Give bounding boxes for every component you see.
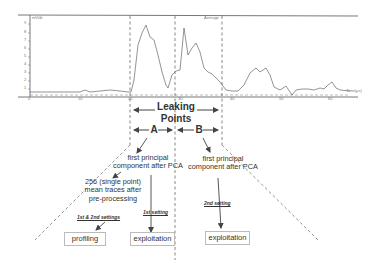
y-tick-label: 6 [24,46,26,51]
y-tick-label: 5 [24,54,26,59]
y-tick-label: 9 [24,21,26,26]
y-tick-label: 8 [24,30,26,35]
x-tick-label: 50 [279,97,283,102]
pca-node-b: first principal component after PCA [183,155,263,172]
chart-frame [18,15,358,97]
y-axis-label: mV/dt [32,16,42,21]
leaking-label-line2: Points [156,113,196,125]
region-boundaries [130,16,222,260]
x-tick-label: 10 [78,97,82,102]
leaking-points-label: Leaking Points [156,101,196,124]
edge-label-1st-2nd-settings: 1st & 2nd settings [77,215,120,221]
x-axis-label: Time(µs) [346,89,362,94]
y-tick-label: 4 [24,62,26,67]
x-tick-label: 20 [128,97,132,102]
y-tick-label: 2 [24,78,26,83]
leakage-pca-diagram: mV/dt Average Time(µs) 1 2 3 4 5 6 7 8 9… [0,0,383,260]
pca-node-a: first principal component after PCA [108,154,188,171]
chart-title: Average [204,16,219,21]
y-tick-label: 1 [24,86,26,91]
y-tick-label: 3 [24,70,26,75]
exploitation-box-b: exploitation [205,231,250,245]
leaking-label-line1: Leaking [156,101,196,113]
x-tick-label: 40 [230,97,234,102]
profiling-box: profiling [64,232,106,246]
pca-node-a-line2: component after PCA [108,162,188,170]
mean-traces-line3: pre-processing [80,195,146,203]
pca-node-b-line2: component after PCA [183,163,263,171]
average-trace [30,25,350,95]
x-tick-label: 60 [328,97,332,102]
mean-traces-node: 256 (single point) mean traces after pre… [80,178,146,203]
edge-label-1st-setting: 1st setting [143,210,168,216]
x-tick-label: 0 [28,97,30,102]
exploitation-box-a: exploitation [130,232,175,246]
y-tick-label: 7 [24,38,26,43]
edge-label-2nd-setting: 2nd setting [204,201,231,207]
region-a-label: A [149,124,159,136]
region-b-label: B [194,124,204,136]
